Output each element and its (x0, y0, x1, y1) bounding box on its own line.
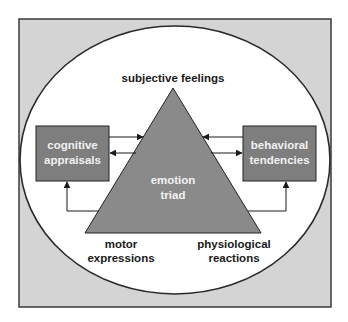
bottom-right-label-line1: physiological (197, 238, 271, 250)
right-box-label-line1: behavioral (251, 139, 309, 151)
bottom-left-label-line1: motor (105, 238, 138, 250)
left-box-label-line1: cognitive (47, 139, 97, 151)
bottom-right-label-line2: reactions (208, 252, 259, 264)
center-label-line1: emotion (151, 174, 196, 186)
center-label-line2: triad (161, 189, 186, 201)
bottom-left-label-line2: expressions (87, 252, 154, 264)
right-box-label-line2: tendencies (249, 154, 309, 166)
emotion-triad-diagram: subjective feelings emotion triad cognit… (0, 0, 348, 322)
top-label: subjective feelings (122, 72, 225, 84)
left-box-label-line2: appraisals (44, 154, 101, 166)
